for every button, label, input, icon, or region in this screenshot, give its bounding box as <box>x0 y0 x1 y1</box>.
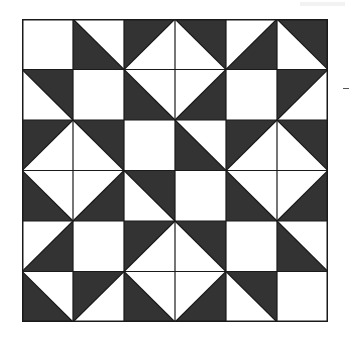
quilt-pattern-grid <box>22 19 328 322</box>
quilt-svg <box>22 19 328 322</box>
margin-dash-mark <box>343 88 349 89</box>
faint-bleed-through-mark <box>300 2 345 6</box>
